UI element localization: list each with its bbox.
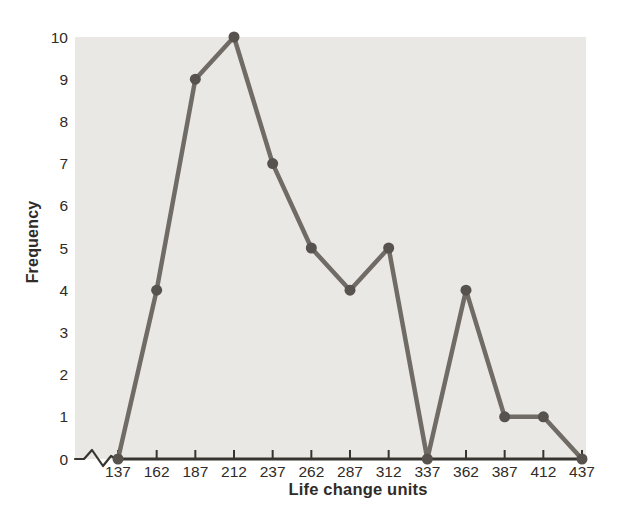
data-point: [461, 285, 472, 296]
data-point: [190, 74, 201, 85]
x-tick-label: 362: [453, 463, 479, 480]
x-tick-label: 262: [298, 463, 324, 480]
x-tick-label: 162: [144, 463, 170, 480]
y-tick-label: 1: [59, 408, 68, 425]
data-point: [267, 158, 278, 169]
data-point: [151, 285, 162, 296]
data-point: [383, 243, 394, 254]
y-tick-label: 8: [59, 113, 68, 130]
x-tick-label: 337: [414, 463, 440, 480]
y-tick-label: 6: [59, 197, 68, 214]
x-tick-label: 287: [337, 463, 363, 480]
x-tick-label: 437: [569, 463, 595, 480]
x-tick-label: 412: [530, 463, 556, 480]
x-tick-label: 187: [182, 463, 208, 480]
y-tick-label: 3: [59, 324, 68, 341]
chart-canvas: 0123456789101371621872122372622873123373…: [0, 0, 618, 525]
x-tick-label: 137: [105, 463, 131, 480]
data-point: [538, 411, 549, 422]
y-tick-label: 0: [59, 451, 68, 468]
y-tick-label: 4: [59, 282, 68, 299]
plot-panel: [75, 37, 586, 459]
y-axis-title: Frequency: [24, 162, 42, 322]
y-tick-label: 2: [59, 366, 68, 383]
data-point: [345, 285, 356, 296]
data-point: [229, 32, 240, 43]
data-point: [499, 411, 510, 422]
frequency-polygon-figure: 0123456789101371621872122372622873123373…: [0, 0, 618, 525]
y-tick-label: 9: [59, 71, 68, 88]
x-axis-title: Life change units: [198, 480, 518, 499]
y-tick-label: 10: [51, 29, 69, 46]
y-tick-label: 7: [59, 155, 68, 172]
y-tick-label: 5: [59, 240, 68, 257]
x-tick-label: 237: [260, 463, 286, 480]
x-tick-label: 387: [492, 463, 518, 480]
x-tick-label: 312: [376, 463, 402, 480]
data-point: [306, 243, 317, 254]
x-tick-label: 212: [221, 463, 247, 480]
